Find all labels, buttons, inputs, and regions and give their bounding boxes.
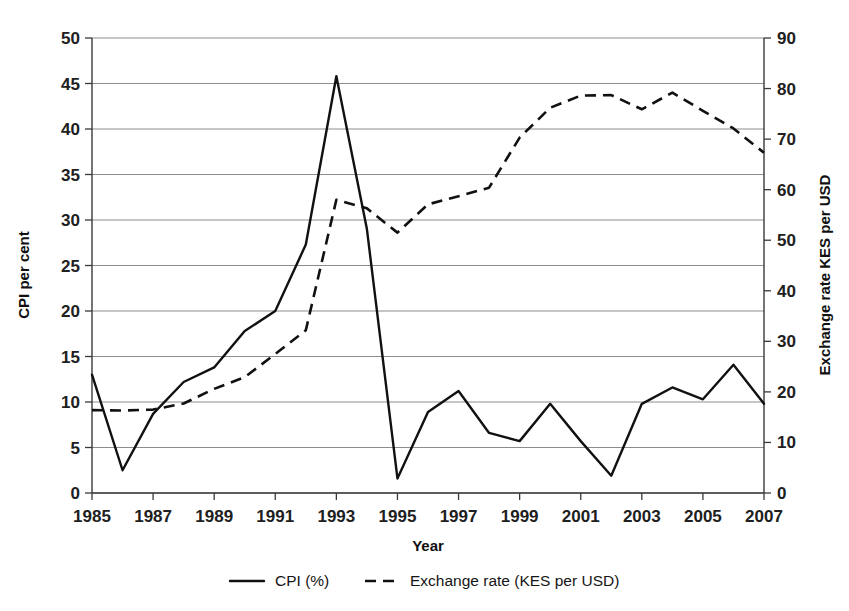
x-axis-tick-label: 2003: [623, 507, 661, 526]
left-axis-tick-label: 45: [61, 75, 80, 94]
x-axis-title: Year: [412, 537, 444, 554]
x-axis-tick-label: 1987: [134, 507, 172, 526]
x-axis-tick-label: 1997: [440, 507, 478, 526]
left-axis-tick-label: 25: [61, 257, 80, 276]
left-axis-tick-label: 10: [61, 393, 80, 412]
chart-figure: 05101520253035404550 0102030405060708090…: [0, 0, 849, 611]
left-axis-title: CPI per cent: [15, 231, 32, 319]
right-axis-tick-label: 50: [777, 231, 796, 250]
x-axis-tick-label: 1991: [256, 507, 294, 526]
x-axis-tick-label: 2007: [745, 507, 783, 526]
left-axis-tick-label: 40: [61, 120, 80, 139]
legend: CPI (%)Exchange rate (KES per USD): [230, 572, 619, 589]
x-axis-tick-label: 1989: [195, 507, 233, 526]
x-axis-tick-label: 2005: [684, 507, 722, 526]
right-axis-tick-label: 0: [777, 484, 786, 503]
right-axis-tick-label: 90: [777, 29, 796, 48]
x-axis-tick-label: 1993: [317, 507, 355, 526]
x-axis-tick-label: 1995: [379, 507, 417, 526]
legend-label-exchange-rate: Exchange rate (KES per USD): [410, 572, 619, 589]
x-axis-tick-label: 1999: [501, 507, 539, 526]
right-axis-title: Exchange rate KES per USD: [816, 174, 833, 375]
right-axis-tick-label: 20: [777, 383, 796, 402]
dual-axis-line-chart: 05101520253035404550 0102030405060708090…: [0, 0, 849, 611]
right-axis-tick-label: 80: [777, 80, 796, 99]
left-axis-tick-label: 15: [61, 348, 80, 367]
left-axis-tick-label: 0: [71, 484, 80, 503]
left-axis-tick-label: 50: [61, 29, 80, 48]
legend-label-cpi: CPI (%): [275, 572, 329, 589]
right-axis-tick-label: 60: [777, 181, 796, 200]
left-axis-tick-label: 35: [61, 166, 80, 185]
right-axis-tick-label: 70: [777, 130, 796, 149]
right-axis-tick-label: 40: [777, 282, 796, 301]
x-axis-tick-label: 1985: [73, 507, 111, 526]
left-axis-tick-label: 5: [71, 439, 80, 458]
right-axis-tick-label: 10: [777, 433, 796, 452]
x-axis-tick-label: 2001: [562, 507, 600, 526]
left-axis-tick-label: 30: [61, 211, 80, 230]
right-axis-tick-label: 30: [777, 332, 796, 351]
left-axis-tick-label: 20: [61, 302, 80, 321]
